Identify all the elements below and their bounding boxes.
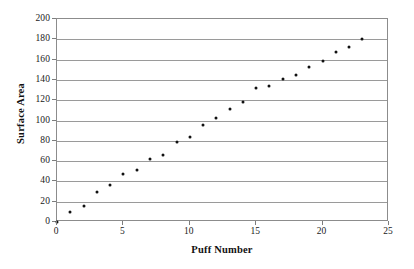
x-axis-tick-mark [122, 221, 123, 225]
y-axis-tick-label-text: 40 [22, 175, 50, 185]
data-point [268, 84, 271, 87]
data-point [95, 190, 98, 193]
y-axis-tick-label-text: 160 [22, 54, 50, 64]
data-point [122, 173, 125, 176]
data-point [334, 51, 337, 54]
data-point [109, 184, 112, 187]
x-axis-tick-mark [189, 221, 190, 225]
y-axis-tick-label-text: 80 [22, 135, 50, 145]
data-point [255, 87, 258, 90]
y-axis-tick-label-text: 120 [22, 94, 50, 104]
gridline [57, 141, 387, 142]
y-axis-tick-label: 200 [0, 18, 50, 28]
data-point [175, 140, 178, 143]
data-point [82, 204, 85, 207]
data-point [135, 169, 138, 172]
y-axis-tick-label: 20 [0, 201, 50, 211]
data-point [361, 38, 364, 41]
gridline [57, 202, 387, 203]
x-axis-tick-label: 0 [43, 226, 69, 237]
data-point [188, 135, 191, 138]
data-point [215, 117, 218, 120]
y-axis-tick-label-text: 60 [22, 155, 50, 165]
y-axis-tick-label-text: 200 [22, 13, 50, 23]
data-point [162, 154, 165, 157]
data-point [148, 158, 151, 161]
y-axis-tick-label-text: 100 [22, 115, 50, 125]
y-axis-title: Surface Area [15, 44, 26, 184]
y-axis-tick-label-text: 0 [22, 216, 50, 226]
gridline [57, 181, 387, 182]
y-axis-tick-label-text: 180 [22, 33, 50, 43]
data-point [69, 210, 72, 213]
data-point [228, 108, 231, 111]
plot-area [56, 18, 388, 221]
x-axis-tick-label: 25 [375, 226, 401, 237]
scatter-chart-figure: 020406080100120140160180200 0510152025 P… [0, 0, 414, 269]
gridline [57, 121, 387, 122]
x-axis-tick-label: 15 [242, 226, 268, 237]
data-point [348, 46, 351, 49]
gridline [57, 60, 387, 61]
x-axis-title: Puff Number [56, 244, 388, 255]
y-axis-tick-label-text: 140 [22, 74, 50, 84]
x-axis-tick-mark [56, 221, 57, 225]
gridline [57, 39, 387, 40]
gridline [57, 100, 387, 101]
data-point [308, 65, 311, 68]
data-point [281, 77, 284, 80]
data-point [295, 73, 298, 76]
data-point [321, 59, 324, 62]
x-axis-tick-label: 20 [309, 226, 335, 237]
gridline [57, 161, 387, 162]
gridline [57, 80, 387, 81]
x-axis-tick-label: 5 [109, 226, 135, 237]
x-axis-tick-label: 10 [176, 226, 202, 237]
x-axis-tick-mark [322, 221, 323, 225]
data-point [241, 101, 244, 104]
y-axis-tick-label-text: 20 [22, 196, 50, 206]
x-axis-tick-mark [388, 221, 389, 225]
x-axis-tick-mark [255, 221, 256, 225]
data-point [202, 123, 205, 126]
